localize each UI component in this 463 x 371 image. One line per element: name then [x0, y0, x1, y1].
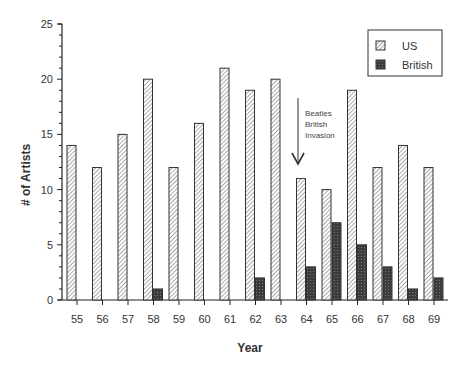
bar-us — [144, 79, 153, 300]
x-tick-label: 57 — [122, 313, 134, 325]
y-tick-label: 20 — [41, 73, 53, 85]
bar-chart: 555657585960616263646566676869 051015202… — [0, 0, 463, 371]
x-tick-label: 68 — [402, 313, 414, 325]
bar-us — [322, 190, 331, 300]
x-tick-label: 55 — [71, 313, 83, 325]
bar-british — [256, 278, 265, 300]
bar-british — [358, 245, 367, 300]
y-tick-label: 5 — [47, 239, 53, 251]
bars — [67, 68, 443, 300]
annotation-line-1: Beatles — [305, 109, 332, 118]
bar-us — [93, 168, 102, 300]
bar-us — [424, 168, 433, 300]
x-tick-label: 64 — [300, 313, 312, 325]
x-tick-label: 58 — [147, 313, 159, 325]
y-tick-label: 15 — [41, 128, 53, 140]
legend-label-us: US — [402, 40, 417, 52]
x-tick-label: 66 — [351, 313, 363, 325]
bar-us — [118, 134, 127, 300]
y-tick-label: 0 — [47, 294, 53, 306]
bar-british — [409, 289, 418, 300]
bar-us — [246, 90, 255, 300]
bar-us — [271, 79, 280, 300]
x-tick-label: 56 — [96, 313, 108, 325]
x-tick-label: 65 — [326, 313, 338, 325]
bar-us — [169, 168, 178, 300]
bar-british — [332, 223, 341, 300]
annotation-line-2: British — [305, 120, 327, 129]
legend: US British — [368, 30, 442, 76]
y-axis-label: # of Artists — [19, 144, 33, 207]
legend-label-british: British — [402, 59, 433, 71]
x-tick-labels: 555657585960616263646566676869 — [71, 313, 440, 325]
bar-us — [67, 145, 76, 300]
bar-british — [307, 267, 316, 300]
bar-british — [434, 278, 443, 300]
x-tick-label: 61 — [224, 313, 236, 325]
bar-us — [373, 168, 382, 300]
bar-us — [399, 145, 408, 300]
x-tick-label: 63 — [275, 313, 287, 325]
bar-british — [154, 289, 163, 300]
y-tick-labels: 0510152025 — [41, 18, 53, 306]
y-tick-label: 10 — [41, 184, 53, 196]
bar-us — [195, 123, 204, 300]
beatles-annotation: Beatles British Invasion — [292, 98, 335, 164]
bar-british — [383, 267, 392, 300]
bar-us — [297, 179, 306, 300]
x-tick-label: 67 — [377, 313, 389, 325]
x-tick-label: 60 — [198, 313, 210, 325]
x-tick-label: 59 — [173, 313, 185, 325]
legend-swatch-us — [376, 41, 385, 50]
legend-swatch-british — [376, 60, 385, 69]
annotation-line-3: Invasion — [305, 131, 335, 140]
y-tick-label: 25 — [41, 18, 53, 30]
bar-us — [220, 68, 229, 300]
bar-us — [348, 90, 357, 300]
x-tick-label: 62 — [249, 313, 261, 325]
x-tick-label: 69 — [428, 313, 440, 325]
x-axis-label: Year — [237, 341, 263, 355]
